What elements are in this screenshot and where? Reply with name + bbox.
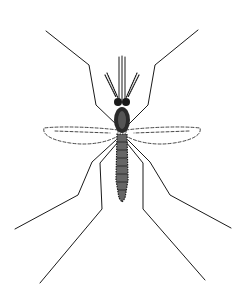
abdomen [116, 134, 128, 202]
thorax [114, 107, 130, 133]
mosquito-drawing [0, 0, 239, 302]
proboscis [119, 56, 125, 100]
mosquito-illustration [0, 0, 239, 302]
